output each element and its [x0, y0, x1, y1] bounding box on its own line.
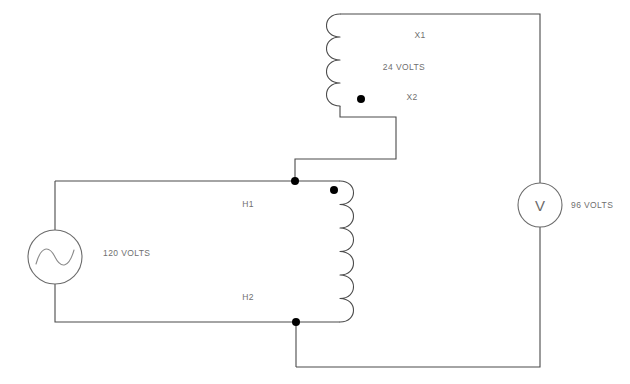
label-h1: H1 — [242, 199, 254, 209]
label-source-voltage: 120 VOLTS — [103, 248, 150, 258]
voltmeter-glyph: V — [535, 197, 545, 214]
label-x2: X2 — [406, 92, 417, 102]
label-x1: X1 — [414, 30, 425, 40]
node-h1-junction — [291, 177, 299, 185]
node-h2-junction — [292, 318, 300, 326]
label-h2: H2 — [242, 292, 254, 302]
polarity-dot-x2 — [357, 95, 365, 103]
secondary-coil-winding — [327, 14, 341, 106]
label-secondary-voltage: 24 VOLTS — [383, 62, 425, 72]
circuit-diagram-canvas: V X1 24 VOLTS X2 H1 H2 120 VOLTS 96 VOLT… — [0, 0, 630, 384]
sine-wave-icon — [36, 249, 74, 265]
polarity-dot-h1 — [330, 186, 338, 194]
label-meter-voltage: 96 VOLTS — [571, 200, 613, 210]
wire-x1-to-top-right — [340, 14, 540, 183]
primary-coil-winding — [340, 181, 354, 322]
wire-voltmeter-to-bottom-right — [296, 227, 540, 367]
circuit-schematic-svg: V X1 24 VOLTS X2 H1 H2 120 VOLTS 96 VOLT… — [0, 0, 630, 384]
wire-left-bottom-leg — [55, 284, 296, 322]
wire-x2-to-h1-junction — [295, 106, 396, 181]
